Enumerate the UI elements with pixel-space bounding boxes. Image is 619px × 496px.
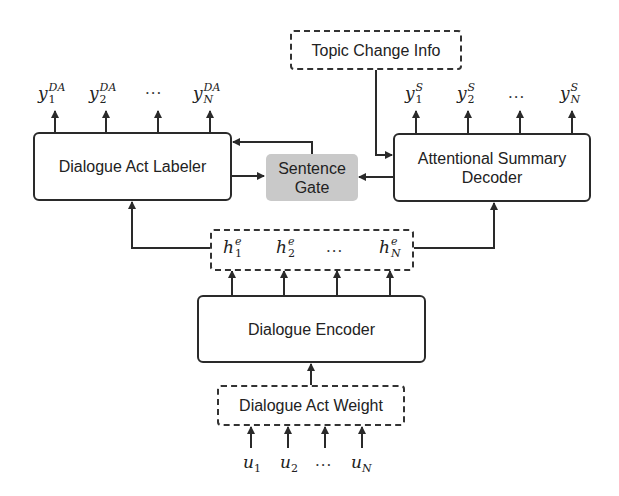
sentence-gate-label-line2: Gate bbox=[295, 178, 330, 197]
da-output-2-base: y bbox=[89, 83, 99, 103]
dialogue-encoder-node: Dialogue Encoder bbox=[197, 295, 426, 363]
summary-output-2-sub: 2 bbox=[468, 94, 476, 106]
input-1: u1 bbox=[243, 452, 261, 475]
hidden-state-n: heN bbox=[379, 236, 401, 260]
summary-output-1-sub: 1 bbox=[416, 94, 424, 106]
hidden-state-1: he1 bbox=[223, 236, 242, 260]
dialogue-act-labeler-node: Dialogue Act Labeler bbox=[33, 132, 232, 201]
hidden-state-ellipsis: ··· bbox=[326, 242, 343, 260]
sentence-gate-node: Sentence Gate bbox=[266, 154, 358, 201]
da-output-1-base: y bbox=[38, 83, 48, 103]
dialogue-act-labeler-label: Dialogue Act Labeler bbox=[59, 157, 207, 176]
input-n: uN bbox=[351, 452, 372, 475]
hidden-state-n-sub: N bbox=[391, 248, 401, 260]
input-1-sub: 1 bbox=[254, 462, 261, 475]
summary-output-n-sub: N bbox=[571, 94, 581, 106]
da-output-n: yDAN bbox=[193, 82, 220, 106]
input-2: u2 bbox=[280, 452, 298, 475]
input-n-sub: N bbox=[362, 462, 372, 475]
summary-output-n-base: y bbox=[560, 83, 570, 103]
dialogue-encoder-label: Dialogue Encoder bbox=[248, 320, 375, 339]
da-output-ellipsis: ··· bbox=[145, 84, 162, 102]
input-1-base: u bbox=[243, 452, 254, 472]
hidden-state-1-sub: 1 bbox=[235, 248, 242, 260]
summary-output-1: yS1 bbox=[405, 82, 423, 106]
dialogue-act-weight-label: Dialogue Act Weight bbox=[239, 396, 383, 415]
dialogue-act-weight-node: Dialogue Act Weight bbox=[217, 385, 405, 426]
decoder-label-line2: Decoder bbox=[462, 168, 522, 187]
da-output-n-base: y bbox=[193, 83, 203, 103]
input-2-sub: 2 bbox=[291, 462, 298, 475]
da-output-1-sub: 1 bbox=[49, 94, 66, 106]
hidden-state-n-base: h bbox=[379, 237, 390, 257]
da-output-n-sub: N bbox=[204, 94, 221, 106]
sentence-gate-label-line1: Sentence bbox=[278, 159, 346, 178]
hidden-state-1-base: h bbox=[223, 237, 234, 257]
summary-output-1-base: y bbox=[405, 83, 415, 103]
summary-output-2-base: y bbox=[457, 83, 467, 103]
da-output-1: yDA1 bbox=[38, 82, 65, 106]
da-output-2-sub: 2 bbox=[100, 94, 117, 106]
summary-output-ellipsis: ··· bbox=[508, 88, 525, 106]
hidden-state-2-base: h bbox=[276, 237, 287, 257]
input-2-base: u bbox=[280, 452, 291, 472]
input-n-base: u bbox=[351, 452, 362, 472]
hidden-state-2-sub: 2 bbox=[288, 248, 295, 260]
decoder-label-line1: Attentional Summary bbox=[418, 149, 567, 168]
da-output-2: yDA2 bbox=[89, 82, 116, 106]
attentional-summary-decoder-node: Attentional Summary Decoder bbox=[393, 133, 591, 202]
topic-change-info-label: Topic Change Info bbox=[312, 41, 441, 60]
input-ellipsis: ··· bbox=[315, 456, 332, 474]
summary-output-2: yS2 bbox=[457, 82, 475, 106]
summary-output-n: ySN bbox=[560, 82, 580, 106]
topic-change-info-node: Topic Change Info bbox=[290, 30, 462, 70]
hidden-state-2: he2 bbox=[276, 236, 295, 260]
